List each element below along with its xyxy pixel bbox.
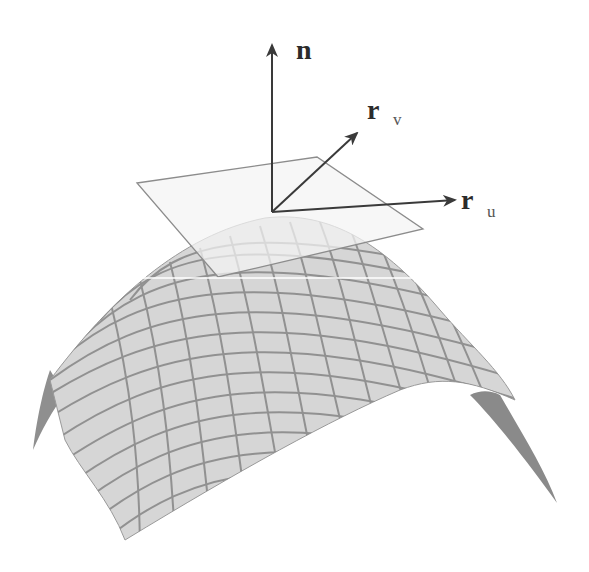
label-rv-subscript: v (393, 111, 402, 128)
label-rv: r (367, 96, 379, 124)
label-ru-subscript: u (487, 203, 496, 220)
label-n: n (296, 36, 312, 64)
surface-diagram (0, 0, 589, 572)
surface-right-edge (470, 391, 557, 503)
label-ru: r (461, 186, 473, 214)
parametric-surface (40, 217, 520, 560)
